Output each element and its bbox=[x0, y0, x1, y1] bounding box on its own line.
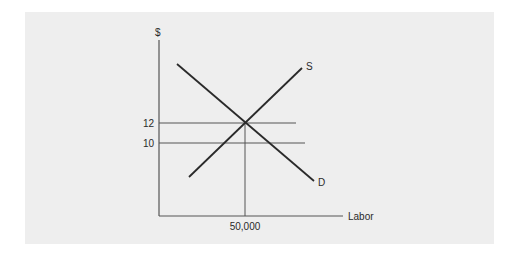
y-tick-12: 12 bbox=[143, 118, 155, 129]
supply-label: S bbox=[306, 61, 313, 72]
demand-label: D bbox=[318, 177, 325, 188]
x-axis-label: Labor bbox=[348, 211, 374, 222]
x-tick-50000: 50,000 bbox=[230, 221, 261, 232]
y-tick-10: 10 bbox=[143, 138, 155, 149]
supply-demand-chart: $ Labor S D 12 10 50,000 bbox=[0, 0, 520, 254]
y-axis-label: $ bbox=[155, 27, 161, 38]
